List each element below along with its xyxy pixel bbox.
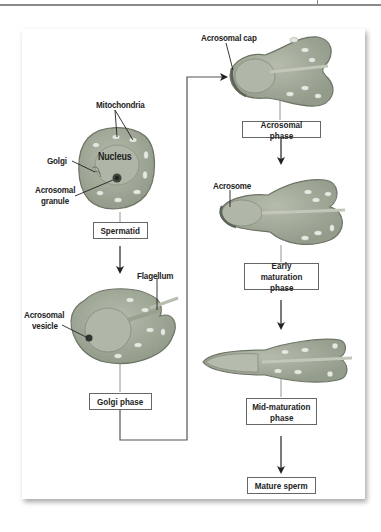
stage-label-mid-maturation-2: phase	[270, 412, 293, 423]
stage-label-golgi-phase: Golgi phase	[97, 396, 143, 407]
stage-label-early-maturation-2: phase	[270, 282, 293, 293]
stage-label-early-maturation-1: Early maturation	[250, 260, 312, 282]
label-acrosomal-granule-line1: Acrosomal	[35, 184, 75, 195]
stage-box-early-maturation: Early maturationphase	[244, 263, 319, 290]
golgi-phase-cell	[71, 289, 178, 364]
diagram-canvas	[0, 0, 381, 532]
mid-maturation-cell	[203, 339, 352, 382]
stage-box-spermatid: Spermatid	[93, 222, 148, 239]
label-acrosomal-vesicle-line2: vesicle	[32, 320, 58, 331]
label-mitochondria: Mitochondria	[96, 99, 145, 110]
stage-label-acrosomal-phase: Acrosomal phase	[249, 119, 314, 141]
spermatid-cell	[79, 128, 155, 209]
acrosomal-phase-cell	[230, 37, 333, 106]
stage-label-mature-sperm: Mature sperm	[255, 480, 308, 491]
stage-box-golgi-phase: Golgi phase	[89, 393, 152, 410]
label-golgi: Golgi	[47, 155, 67, 166]
stage-box-mid-maturation: Mid-maturationphase	[246, 398, 317, 425]
stage-label-spermatid: Spermatid	[101, 225, 140, 236]
label-acrosomal-cap: Acrosomal cap	[201, 32, 257, 43]
stage-box-acrosomal-phase: Acrosomal phase	[242, 121, 321, 138]
stage-box-mature-sperm: Mature sperm	[247, 477, 316, 494]
stage-label-mid-maturation-1: Mid-maturation	[252, 401, 310, 412]
label-acrosomal-vesicle-line1: Acrosomal	[24, 309, 64, 320]
label-acrosome: Acrosome	[213, 180, 251, 191]
label-acrosomal-granule-line2: granule	[41, 195, 69, 206]
label-flagellum: Flagellum	[137, 270, 173, 281]
label-nucleus: Nucleus	[98, 151, 132, 162]
